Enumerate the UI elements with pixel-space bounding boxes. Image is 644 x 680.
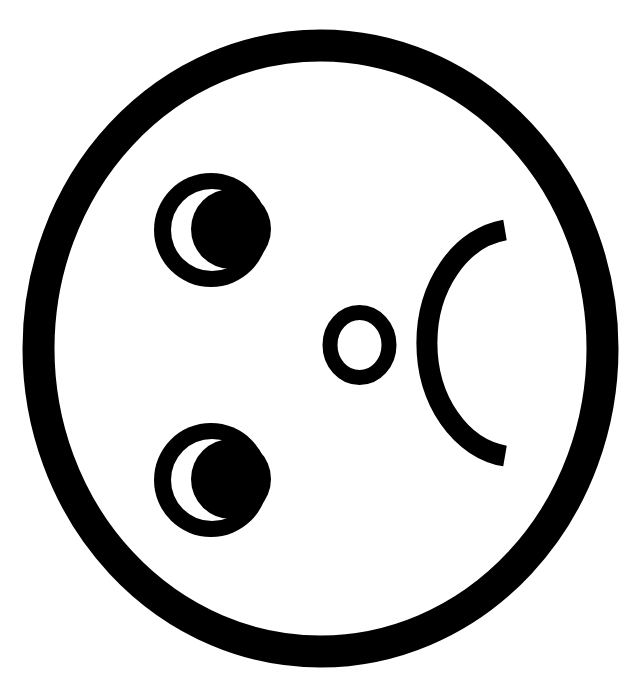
- emoticon-face: [0, 0, 644, 680]
- background: [0, 0, 644, 680]
